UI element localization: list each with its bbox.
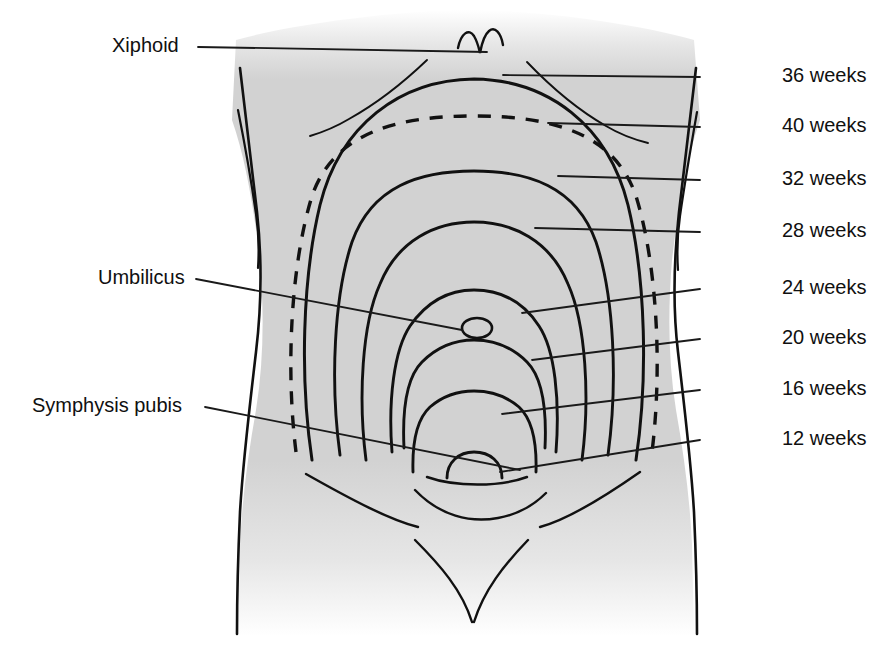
landmark-label-xiphoid: Xiphoid — [112, 34, 179, 57]
week-label-w32: 32 weeks — [782, 167, 867, 190]
week-label-w36: 36 weeks — [782, 64, 867, 87]
figure-canvas: XiphoidUmbilicusSymphysis pubis36 weeks4… — [0, 0, 895, 655]
week-label-w12: 12 weeks — [782, 427, 867, 450]
week-label-w20: 20 weeks — [782, 326, 867, 349]
landmark-label-symphysis-pubis: Symphysis pubis — [32, 394, 182, 417]
landmark-label-umbilicus: Umbilicus — [98, 266, 185, 289]
week-label-w40: 40 weeks — [782, 114, 867, 137]
week-label-w24: 24 weeks — [782, 276, 867, 299]
torso-silhouette — [232, 10, 700, 636]
week-label-w28: 28 weeks — [782, 219, 867, 242]
week-label-w16: 16 weeks — [782, 377, 867, 400]
fundal-height-illustration — [0, 0, 895, 655]
